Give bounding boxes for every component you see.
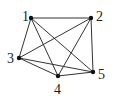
node-labels: 12345: [7, 9, 105, 97]
edge-2-3: [19, 18, 91, 58]
edge-1-4: [31, 18, 58, 76]
edge-4-5: [58, 72, 93, 76]
node-5: [91, 70, 95, 74]
edge-3-4: [19, 58, 58, 76]
node-1: [29, 16, 33, 20]
node-label-4: 4: [54, 82, 61, 97]
edges: [19, 18, 93, 76]
node-label-3: 3: [7, 51, 14, 66]
node-label-1: 1: [22, 9, 29, 24]
edge-2-5: [91, 18, 93, 72]
node-3: [17, 56, 21, 60]
edge-1-5: [31, 18, 93, 72]
node-label-5: 5: [98, 67, 105, 82]
node-2: [89, 16, 93, 20]
node-4: [56, 74, 60, 78]
graph-diagram: 12345: [0, 0, 114, 98]
edge-3-5: [19, 58, 93, 72]
node-label-2: 2: [96, 9, 103, 24]
